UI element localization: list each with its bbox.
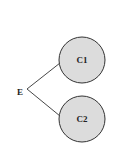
- tree-diagram: C1 C2 E: [0, 0, 117, 152]
- node-c2: C2: [59, 96, 105, 142]
- node-c2-label: C2: [77, 114, 88, 124]
- node-c1-label: C1: [77, 55, 88, 65]
- node-c1: C1: [59, 37, 105, 83]
- root-label-e: E: [17, 87, 23, 97]
